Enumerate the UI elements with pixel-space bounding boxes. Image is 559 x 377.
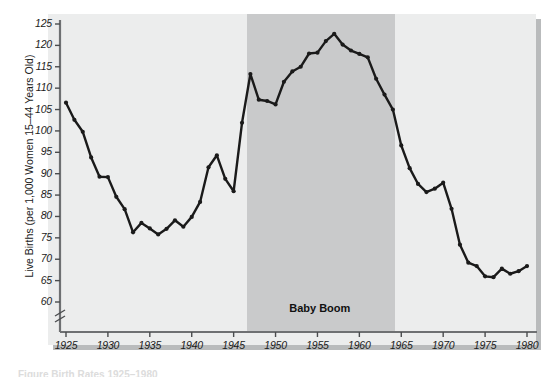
x-axis-tick-label: 1965 — [381, 339, 421, 351]
x-axis-tick-label: 1960 — [339, 339, 379, 351]
x-axis-tick-label: 1940 — [172, 339, 212, 351]
x-axis-tick-label: 1975 — [465, 339, 505, 351]
birth-rate-line-chart — [0, 0, 559, 377]
x-axis-tick-label: 1980 — [507, 339, 547, 351]
figure-page: 6065707580859095100105110115120125 19251… — [0, 0, 559, 377]
y-axis-tick-label: 60 — [26, 295, 52, 307]
y-axis-title: Live Births (per 1,000 Women 15–44 Years… — [23, 41, 35, 291]
x-axis-tick-label: 1945 — [214, 339, 254, 351]
x-axis-tick-label: 1935 — [130, 339, 170, 351]
x-axis-tick-label: 1930 — [88, 339, 128, 351]
baby-boom-label: Baby Boom — [289, 302, 350, 314]
x-axis-tick-label: 1955 — [297, 339, 337, 351]
y-axis-tick-label: 125 — [26, 17, 52, 29]
figure-caption-cutoff: Figure Birth Rates 1925–1980 — [18, 369, 158, 377]
x-axis-tick-label: 1950 — [256, 339, 296, 351]
x-axis-tick-label: 1925 — [46, 339, 86, 351]
x-axis-tick-label: 1970 — [423, 339, 463, 351]
